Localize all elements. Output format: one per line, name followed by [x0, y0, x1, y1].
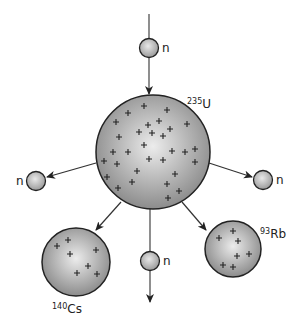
cesium-mass-number: 140 — [52, 302, 67, 311]
incoming-neutron — [140, 39, 159, 58]
cesium-symbol: Cs — [67, 302, 82, 316]
cesium-label: 140Cs — [52, 302, 82, 316]
uranium-mass-number: 235 — [187, 97, 202, 106]
rubidium-mass-number: 93 — [260, 227, 270, 236]
arrow-to-right-neutron — [209, 163, 252, 177]
left-neutron — [27, 172, 46, 191]
right-neutron-label: n — [276, 173, 284, 187]
uranium-nucleus — [96, 95, 210, 209]
uranium-symbol: U — [202, 97, 211, 111]
incoming-neutron-label: n — [162, 41, 170, 55]
fission-diagram: n — [0, 0, 299, 327]
rubidium-symbol: Rb — [270, 227, 286, 241]
bottom-neutron — [141, 252, 160, 271]
arrow-to-left-neutron — [47, 163, 96, 177]
left-neutron-label: n — [16, 174, 24, 188]
right-neutron — [254, 171, 273, 190]
bottom-neutron-label: n — [163, 254, 171, 268]
rubidium-nucleus — [205, 221, 261, 277]
rubidium-label: 93Rb — [260, 227, 286, 241]
arrow-to-cesium — [96, 202, 121, 230]
arrow-to-rubidium — [182, 202, 206, 230]
cesium-nucleus — [42, 228, 110, 296]
